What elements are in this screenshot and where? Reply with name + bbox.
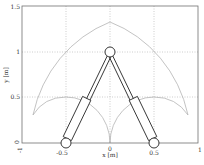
left-base-joint [61, 138, 71, 148]
left-cylinder [63, 96, 91, 140]
left-actuator-leg [63, 56, 110, 141]
x-tick--1: -1 [16, 147, 23, 153]
x-axis-label: x [m] [102, 151, 118, 158]
y-tick-0.5: 0.5 [10, 93, 20, 100]
outer-arc-right [110, 22, 188, 115]
y-tick-1: 1 [16, 48, 20, 55]
top-joint [105, 47, 115, 57]
outer-arc-left [33, 22, 110, 115]
workspace-boundary [33, 22, 188, 143]
y-axis-label: y [m] [2, 67, 10, 84]
parallel-mechanism-workspace-plot: 1.5 1 0.5 0 -1 -0.5 0 0.5 1 x [m] y [m] [0, 0, 204, 165]
x-tick--0.5: -0.5 [56, 149, 68, 156]
right-base-joint [149, 138, 159, 148]
inner-arc-right-outer [154, 97, 188, 115]
x-tick-0.5: 0.5 [149, 149, 159, 156]
inner-arc-left-outer [33, 97, 66, 115]
right-cylinder [129, 96, 157, 140]
y-tick-1.5: 1.5 [10, 3, 20, 10]
x-tick-1: 1 [198, 146, 202, 153]
y-tick-0: 0 [13, 140, 20, 144]
right-actuator-leg [109, 56, 156, 141]
y-tick-labels: 1.5 1 0.5 [10, 3, 20, 100]
